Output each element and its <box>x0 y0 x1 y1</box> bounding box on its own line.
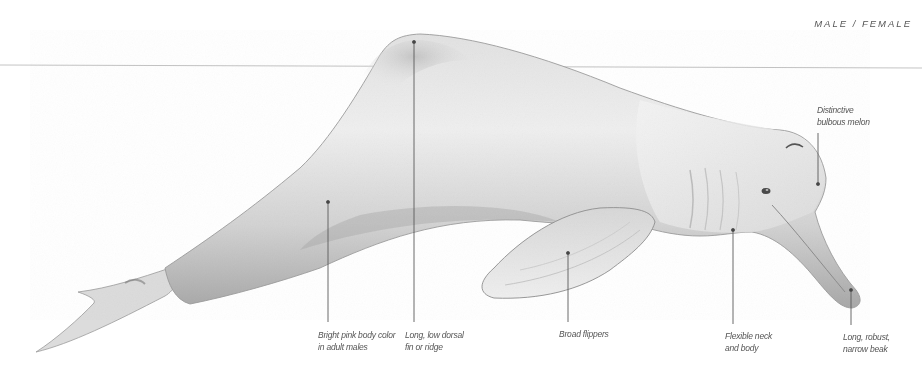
callout-flippers: Broad flippers <box>559 328 609 340</box>
dolphin-diagram: MALE / FEMALE Bright pink body color in … <box>0 0 922 374</box>
callout-body-color-line1: Bright pink body color <box>318 329 395 341</box>
callout-dorsal: Long, low dorsal fin or ridge <box>405 329 464 353</box>
callout-melon-line1: Distinctive <box>817 104 870 116</box>
callout-melon-line2: bulbous melon <box>817 116 870 128</box>
callout-dorsal-line1: Long, low dorsal <box>405 329 464 341</box>
callout-body-color-line2: in adult males <box>318 341 395 353</box>
callout-melon: Distinctive bulbous melon <box>817 104 870 128</box>
callout-neck-line2: and body <box>725 342 772 354</box>
dolphin-illustration <box>0 0 922 374</box>
sex-label: MALE / FEMALE <box>814 18 912 29</box>
callout-flippers-line1: Broad flippers <box>559 328 609 340</box>
callout-neck: Flexible neck and body <box>725 330 772 354</box>
callout-beak-line2: narrow beak <box>843 343 890 355</box>
callout-neck-line1: Flexible neck <box>725 330 772 342</box>
callout-beak-line1: Long, robust, <box>843 331 890 343</box>
callout-body-color: Bright pink body color in adult males <box>318 329 395 353</box>
callout-dorsal-line2: fin or ridge <box>405 341 464 353</box>
callout-beak: Long, robust, narrow beak <box>843 331 890 355</box>
